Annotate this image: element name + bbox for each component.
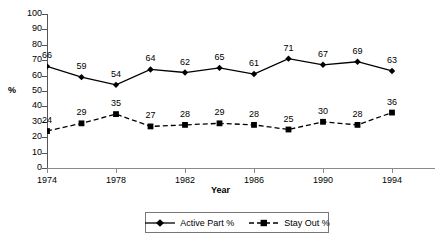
legend-label-active-part: Active Part %: [180, 218, 234, 228]
data-value-label: 28: [345, 110, 371, 119]
data-value-label: 36: [379, 98, 405, 107]
x-tick-mark: [47, 168, 48, 173]
data-point-marker: [47, 128, 50, 134]
data-point-marker: [147, 66, 153, 72]
data-value-label: 35: [103, 99, 129, 108]
y-tick-label: 0: [20, 163, 42, 172]
x-tick-mark: [392, 168, 393, 173]
data-value-label: 69: [345, 47, 371, 56]
x-axis-line: [47, 168, 435, 169]
y-tick-label: 100: [20, 9, 42, 18]
data-point-marker: [285, 55, 291, 61]
data-point-marker: [79, 120, 85, 126]
data-point-marker: [148, 124, 154, 130]
data-point-marker: [320, 119, 326, 125]
data-value-label: 71: [276, 44, 302, 53]
data-value-label: 29: [69, 108, 95, 117]
data-value-label: 65: [207, 53, 233, 62]
y-tick-label: 60: [20, 71, 42, 80]
data-point-marker: [216, 65, 222, 71]
data-value-label: 28: [172, 110, 198, 119]
data-point-marker: [389, 110, 395, 116]
data-point-marker: [286, 127, 292, 133]
x-tick-mark: [116, 168, 117, 173]
data-value-label: 61: [241, 59, 267, 68]
legend-swatch-square-dashed: [248, 218, 280, 228]
data-value-label: 63: [379, 56, 405, 65]
legend-item-active-part[interactable]: Active Part %: [144, 218, 234, 228]
data-value-label: 62: [172, 58, 198, 67]
y-tick-label: 40: [20, 101, 42, 110]
y-tick-label: 10: [20, 148, 42, 157]
data-point-marker: [320, 62, 326, 68]
x-tick-label: 1986: [234, 175, 274, 185]
legend-item-stay-out[interactable]: Stay Out %: [248, 218, 330, 228]
x-tick-label: 1994: [372, 175, 412, 185]
legend-swatch-diamond-line: [144, 218, 176, 228]
line-chart: % Year 1009080706050403020100 1974197819…: [0, 0, 441, 241]
x-tick-label: 1982: [165, 175, 205, 185]
data-point-marker: [355, 122, 361, 128]
data-point-marker: [182, 69, 188, 75]
x-tick-mark: [323, 168, 324, 173]
chart-legend: Active Part % Stay Out %: [145, 212, 329, 233]
x-tick-label: 1978: [96, 175, 136, 185]
data-point-marker: [78, 74, 84, 80]
y-tick-label: 90: [20, 24, 42, 33]
series-line-active-part: [47, 59, 392, 85]
data-value-label: 28: [241, 110, 267, 119]
data-value-label: 54: [103, 70, 129, 79]
data-value-label: 24: [34, 116, 60, 125]
data-point-marker: [47, 63, 50, 69]
x-tick-mark: [254, 168, 255, 173]
y-tick-label: 50: [20, 86, 42, 95]
data-point-marker: [113, 111, 119, 117]
data-value-label: 59: [69, 62, 95, 71]
data-point-marker: [182, 122, 188, 128]
data-value-label: 66: [34, 51, 60, 60]
data-point-marker: [251, 71, 257, 77]
data-point-marker: [217, 120, 223, 126]
data-value-label: 64: [138, 54, 164, 63]
data-point-marker: [389, 68, 395, 74]
data-value-label: 27: [138, 111, 164, 120]
x-tick-label: 1990: [303, 175, 343, 185]
y-tick-label: 80: [20, 40, 42, 49]
y-tick-label: 20: [20, 132, 42, 141]
legend-label-stay-out: Stay Out %: [284, 218, 330, 228]
data-value-label: 67: [310, 50, 336, 59]
plot-area: [47, 14, 435, 168]
data-value-label: 30: [310, 107, 336, 116]
data-point-marker: [354, 59, 360, 65]
data-point-marker: [251, 122, 257, 128]
data-value-label: 25: [276, 115, 302, 124]
data-value-label: 29: [207, 108, 233, 117]
x-tick-mark: [185, 168, 186, 173]
data-point-marker: [113, 82, 119, 88]
x-tick-label: 1974: [27, 175, 67, 185]
x-axis-title: Year: [0, 185, 441, 195]
